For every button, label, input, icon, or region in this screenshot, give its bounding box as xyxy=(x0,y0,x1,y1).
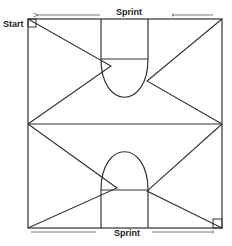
sprint-label-bottom: Sprint xyxy=(114,228,140,238)
start-label: Start xyxy=(3,19,24,29)
bottom-key xyxy=(101,152,148,228)
top-key xyxy=(101,19,148,97)
sprint-label-top: Sprint xyxy=(116,7,142,17)
finish-marker-box xyxy=(213,219,222,228)
court-diagram xyxy=(0,0,232,246)
